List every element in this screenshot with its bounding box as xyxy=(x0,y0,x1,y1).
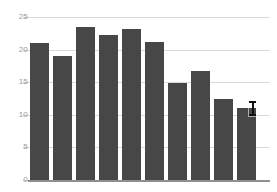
bar-slot xyxy=(189,17,212,180)
bar-slot xyxy=(120,17,143,180)
bar-series xyxy=(28,17,270,180)
bar-slot xyxy=(212,17,235,180)
y-tick-label: 15 xyxy=(8,78,28,86)
bar[interactable] xyxy=(214,99,232,180)
y-tick-label: 5 xyxy=(8,143,28,151)
bar-slot xyxy=(235,17,258,180)
bar-slot xyxy=(74,17,97,180)
axis-baseline xyxy=(28,180,270,182)
bar-slot xyxy=(143,17,166,180)
bar-slot xyxy=(51,17,74,180)
bar[interactable] xyxy=(122,29,140,180)
y-tick-label: 25 xyxy=(8,13,28,21)
bar-slot xyxy=(97,17,120,180)
plot-area xyxy=(28,17,270,180)
bar[interactable] xyxy=(30,43,48,180)
bar-chart: 0510152025 xyxy=(0,0,277,192)
bar[interactable] xyxy=(145,42,163,180)
bar[interactable] xyxy=(191,71,209,180)
bar-slot xyxy=(28,17,51,180)
y-tick-label: 20 xyxy=(8,46,28,54)
bar[interactable] xyxy=(237,108,255,180)
bar[interactable] xyxy=(99,35,117,180)
y-tick-label: 10 xyxy=(8,111,28,119)
bar[interactable] xyxy=(168,83,186,180)
bar[interactable] xyxy=(53,56,71,180)
y-tick-label: 0 xyxy=(8,176,28,184)
bar[interactable] xyxy=(76,27,94,180)
bar-slot xyxy=(166,17,189,180)
